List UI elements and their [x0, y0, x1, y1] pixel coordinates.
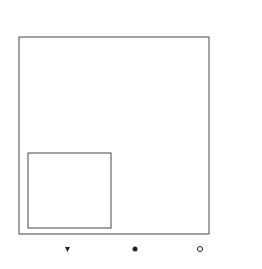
legend-bn-icon [133, 247, 138, 252]
inset-frame [28, 153, 111, 228]
legend-c-icon [198, 247, 203, 252]
legend-bc3-icon [65, 247, 70, 252]
rotated-chart [0, 0, 262, 269]
legend [65, 247, 203, 253]
chart-svg [0, 0, 262, 269]
